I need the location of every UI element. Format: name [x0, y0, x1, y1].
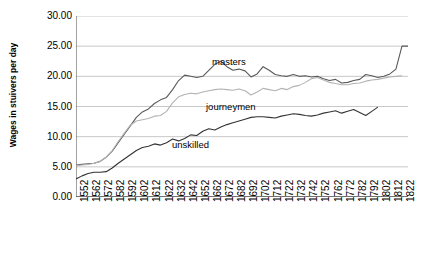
y-tick-label: 20.00 [47, 71, 72, 81]
y-tick-label: 5.00 [53, 162, 72, 172]
x-tick-label: 1582 [116, 180, 126, 202]
series-annotation-journeymen: journeymen [206, 101, 256, 112]
x-tick-label: 1612 [152, 180, 162, 202]
series-annotation-masters: masters [212, 56, 246, 67]
x-tick-label: 1682 [237, 180, 247, 202]
x-tick-label: 1602 [140, 180, 150, 202]
x-tick-label: 1562 [92, 180, 102, 202]
series-annotation-unskilled: unskilled [172, 139, 209, 150]
y-tick-label: 15.00 [47, 102, 72, 112]
x-tick-label: 1782 [358, 180, 368, 202]
x-tick-label: 1722 [285, 180, 295, 202]
x-tick-label: 1702 [261, 180, 271, 202]
y-tick-label: 25.00 [47, 41, 72, 51]
x-tick-label: 1662 [213, 180, 223, 202]
x-tick-label: 1552 [80, 180, 90, 202]
x-tick-label: 1652 [201, 180, 211, 202]
x-tick-label: 1622 [165, 180, 175, 202]
x-tick-label: 1822 [406, 180, 416, 202]
x-tick-label: 1812 [394, 180, 404, 202]
wages-line-chart: Wages in stuivers per day 0.005.0010.001… [0, 0, 426, 257]
x-tick-label: 1642 [189, 180, 199, 202]
x-tick-label: 1632 [177, 180, 187, 202]
x-tick-label: 1772 [346, 180, 356, 202]
x-tick-label: 1742 [309, 180, 319, 202]
x-tick-label: 1592 [128, 180, 138, 202]
x-tick-label: 1752 [321, 180, 331, 202]
x-axis-tick-labels: 1552156215721582159216021612162216321642… [76, 200, 416, 257]
y-tick-label: 30.00 [47, 11, 72, 21]
x-tick-label: 1672 [225, 180, 235, 202]
x-tick-label: 1792 [370, 180, 380, 202]
x-tick-label: 1762 [334, 180, 344, 202]
y-axis-tick-labels: 0.005.0010.0015.0020.0025.0030.00 [0, 0, 72, 210]
y-tick-label: 0.00 [53, 192, 72, 202]
x-tick-label: 1802 [382, 180, 392, 202]
x-tick-label: 1572 [104, 180, 114, 202]
series-line-unskilled [76, 107, 378, 179]
x-tick-label: 1692 [249, 180, 259, 202]
x-tick-label: 1732 [297, 180, 307, 202]
x-tick-label: 1712 [273, 180, 283, 202]
y-tick-label: 10.00 [47, 132, 72, 142]
